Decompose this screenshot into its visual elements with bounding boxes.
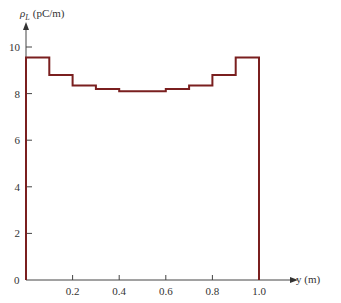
x-tick-label: 1.0 — [252, 285, 266, 297]
x-axis-label: y (m) — [296, 273, 320, 286]
axes — [23, 22, 298, 283]
x-tick-label: 0.4 — [112, 285, 126, 297]
origin-label: 0 — [14, 274, 20, 286]
y-tick-label: 6 — [15, 134, 21, 146]
step-chart: 0.20.40.60.81.0246810 ρL(pC/m) y (m) 0 — [0, 0, 341, 303]
x-tick-label: 0.6 — [159, 285, 173, 297]
y-tick-label: 8 — [15, 88, 21, 100]
x-tick-label: 0.8 — [206, 285, 220, 297]
data-series — [26, 57, 259, 280]
y-tick-label: 4 — [15, 181, 21, 193]
y-tick-label: 10 — [9, 41, 21, 53]
y-axis-units: (pC/m) — [33, 7, 65, 20]
step-line — [26, 57, 259, 280]
x-tick-label: 0.2 — [66, 285, 80, 297]
y-axis-label: ρL(pC/m) — [19, 7, 65, 22]
y-axis-subscript: L — [24, 13, 30, 22]
y-axis-arrow-icon — [23, 22, 29, 30]
y-tick-label: 2 — [15, 227, 21, 239]
tick-marks: 0.20.40.60.81.0246810 — [9, 41, 266, 297]
